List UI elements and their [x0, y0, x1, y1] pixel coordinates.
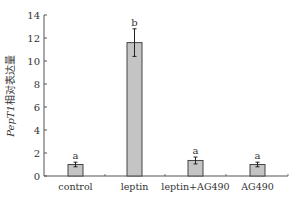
- significance-letter: a: [73, 150, 79, 161]
- y-tick-label: 10: [27, 56, 40, 67]
- labels: acontrolbleptinaleptin+AG490aAG490: [58, 17, 273, 192]
- y-tick-label: 6: [34, 102, 40, 113]
- chart-canvas: 02468101214 acontrolbleptinaleptin+AG490…: [0, 0, 299, 204]
- y-tick-label: 4: [34, 125, 40, 136]
- y-tick-label: 0: [34, 171, 40, 182]
- y-tick-label: 14: [27, 10, 40, 21]
- y-tick-label: 2: [34, 148, 40, 159]
- bars: [68, 29, 265, 176]
- y-axis-label-cn: 相对表达量: [4, 55, 16, 105]
- y-axis-label: PepT1相对表达量: [4, 55, 16, 138]
- x-tick-label: AG490: [240, 181, 274, 192]
- y-axis-label-italic: PepT1: [5, 105, 16, 138]
- x-tick-label: control: [58, 181, 92, 192]
- bar-leptin: [127, 43, 142, 176]
- y-tick-label: 12: [27, 33, 40, 44]
- significance-letter: b: [131, 17, 137, 28]
- x-tick-label: leptin: [121, 181, 149, 192]
- x-tick-label: leptin+AG490: [161, 181, 229, 192]
- significance-letter: a: [255, 150, 261, 161]
- significance-letter: a: [193, 145, 199, 156]
- bar-chart: 02468101214 acontrolbleptinaleptin+AG490…: [0, 0, 299, 204]
- axes: 02468101214: [27, 10, 288, 182]
- y-tick-label: 8: [34, 79, 40, 90]
